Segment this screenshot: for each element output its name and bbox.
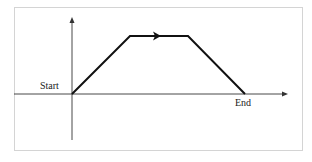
trapezoid-path bbox=[72, 32, 245, 95]
start-label: Start bbox=[40, 81, 59, 91]
y-axis-arrowhead-icon bbox=[70, 17, 75, 23]
x-axis-arrowhead-icon bbox=[282, 92, 288, 97]
x-axis bbox=[14, 92, 288, 97]
end-label: End bbox=[235, 98, 251, 108]
y-axis bbox=[70, 17, 75, 140]
